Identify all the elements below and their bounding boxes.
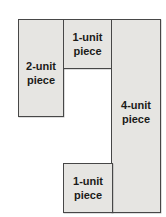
piece-4-unit-label-line1: 4-unit bbox=[121, 98, 151, 112]
piece-2-unit-label: 2-unit piece bbox=[26, 59, 56, 87]
piece-1-unit-top-label-line1: 1-unit bbox=[73, 30, 103, 44]
piece-2-unit: 2-unit piece bbox=[18, 19, 64, 117]
piece-1-unit-bottom-label: 1-unit piece bbox=[73, 174, 103, 202]
piece-2-unit-label-line1: 2-unit bbox=[26, 59, 56, 73]
unit-pieces-diagram: 2-unit piece 1-unit piece 4-unit piece 1… bbox=[0, 0, 166, 217]
piece-1-unit-bottom: 1-unit piece bbox=[63, 163, 113, 213]
piece-4-unit-label-line2: piece bbox=[121, 112, 151, 126]
piece-1-unit-top-label: 1-unit piece bbox=[73, 30, 103, 58]
piece-4-unit-label: 4-unit piece bbox=[121, 98, 151, 126]
piece-1-unit-top: 1-unit piece bbox=[63, 19, 112, 69]
piece-1-unit-top-label-line2: piece bbox=[73, 44, 103, 58]
piece-1-unit-bottom-label-line2: piece bbox=[73, 188, 103, 202]
piece-2-unit-label-line2: piece bbox=[26, 73, 56, 87]
piece-4-unit: 4-unit piece bbox=[111, 19, 161, 213]
piece-1-unit-bottom-label-line1: 1-unit bbox=[73, 174, 103, 188]
